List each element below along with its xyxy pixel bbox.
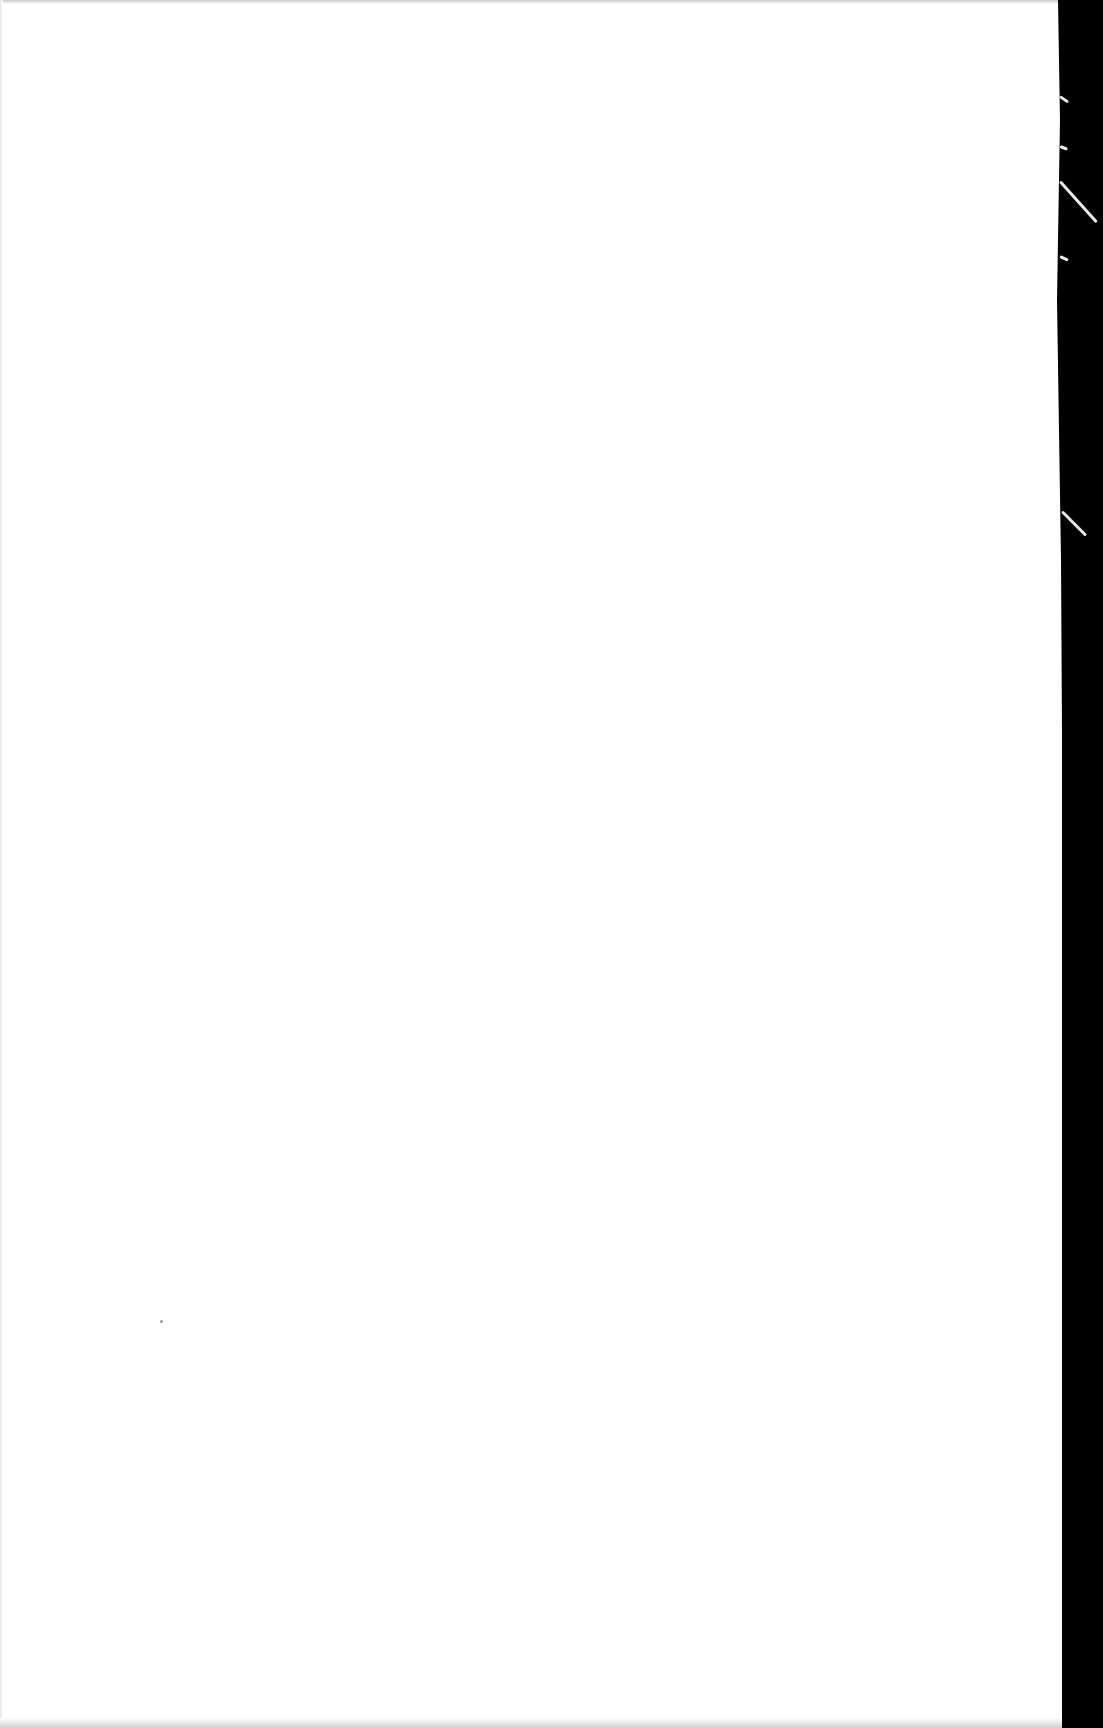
scanned-document <box>0 0 1103 1728</box>
blank-paper-page <box>0 0 1062 1728</box>
page-left-edge <box>0 0 3 1728</box>
paper-fiber <box>1059 145 1068 151</box>
page-top-edge <box>0 0 1062 4</box>
paper-fiber <box>1059 95 1069 103</box>
paper-fiber <box>1059 255 1068 262</box>
paper-fiber <box>1061 510 1087 536</box>
dust-speck <box>160 1320 163 1323</box>
paper-fiber <box>1059 180 1098 223</box>
page-bottom-edge <box>0 1718 1062 1728</box>
